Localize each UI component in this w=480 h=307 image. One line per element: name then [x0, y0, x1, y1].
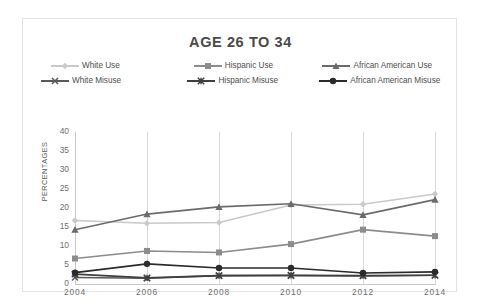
data-point-diamond — [216, 219, 222, 225]
y-axis-tick: 25 — [45, 183, 69, 193]
legend-marker-cross-icon — [41, 76, 69, 86]
legend-marker-triangle-icon — [322, 61, 350, 71]
data-point-diamond — [62, 63, 68, 69]
series-line — [75, 194, 435, 223]
series-1 — [72, 227, 438, 262]
data-point-diamond — [144, 220, 150, 226]
legend-marker-star-icon — [187, 76, 215, 86]
legend-label: Hispanic Use — [225, 61, 273, 71]
legend-marker-circle-icon — [319, 76, 347, 86]
legend-item-african-american-misuse[interactable]: African American Misuse — [319, 76, 451, 86]
data-point-circle — [288, 265, 294, 271]
chart-legend: White UseHispanic UseAfrican American Us… — [31, 61, 451, 91]
data-point-circle — [144, 261, 150, 267]
y-axis-tick: 20 — [45, 202, 69, 212]
y-axis-tick: 30 — [45, 164, 69, 174]
y-axis-tick: 5 — [45, 259, 69, 269]
series-line — [75, 230, 435, 259]
legend-item-african-american-use[interactable]: African American Use — [322, 61, 451, 71]
legend-item-white-use[interactable]: White Use — [31, 61, 194, 71]
x-axis-tick: 2008 — [195, 287, 243, 297]
data-point-cross — [52, 78, 58, 84]
data-point-diamond — [72, 217, 78, 223]
data-point-square — [205, 63, 211, 69]
y-axis-tick: 40 — [45, 126, 69, 136]
x-axis-tick: 2006 — [123, 287, 171, 297]
y-axis-tick: 10 — [45, 240, 69, 250]
series-0 — [72, 191, 438, 227]
legend-label: Hispanic Misuse — [218, 76, 278, 86]
series-5 — [72, 261, 438, 277]
legend-label: African American Use — [353, 61, 432, 71]
data-point-square — [288, 241, 294, 247]
data-point-square — [216, 249, 222, 255]
data-point-square — [72, 256, 78, 262]
data-point-diamond — [360, 201, 366, 207]
data-point-square — [144, 248, 150, 254]
plot-area: PERCENTAGES 0510152025303540200420062008… — [23, 107, 458, 293]
data-point-circle — [360, 270, 366, 276]
x-axis-tick: 2004 — [51, 287, 99, 297]
data-point-circle — [432, 269, 438, 275]
legend-item-hispanic-misuse[interactable]: Hispanic Misuse — [187, 76, 319, 86]
x-axis-tick: 2014 — [411, 287, 459, 297]
x-axis-tick: 2012 — [339, 287, 387, 297]
data-point-triangle — [333, 62, 340, 69]
legend-item-hispanic-use[interactable]: Hispanic Use — [194, 61, 323, 71]
y-axis-tick: 15 — [45, 221, 69, 231]
series-line — [75, 200, 435, 230]
data-point-square — [360, 227, 366, 233]
legend-label: African American Misuse — [350, 76, 440, 86]
y-axis-tick: 35 — [45, 145, 69, 155]
legend-marker-square-icon — [194, 61, 222, 71]
data-point-circle — [330, 78, 336, 84]
series-line — [75, 274, 435, 278]
x-axis-tick: 2010 — [267, 287, 315, 297]
legend-row: White UseHispanic UseAfrican American Us… — [31, 61, 451, 71]
data-point-circle — [216, 265, 222, 271]
series-layer — [23, 107, 458, 293]
data-point-circle — [72, 269, 78, 275]
legend-label: White Misuse — [72, 76, 121, 86]
legend-label: White Use — [82, 61, 120, 71]
chart-title: AGE 26 TO 34 — [23, 34, 458, 50]
legend-row: White MisuseHispanic MisuseAfrican Ameri… — [31, 76, 451, 86]
series-line — [75, 264, 435, 273]
data-point-star — [198, 78, 204, 84]
legend-item-white-misuse[interactable]: White Misuse — [31, 76, 187, 86]
chart-card: AGE 26 TO 34 White UseHispanic UseAfrica… — [22, 18, 457, 292]
legend-marker-diamond-icon — [51, 61, 79, 71]
data-point-square — [432, 233, 438, 239]
